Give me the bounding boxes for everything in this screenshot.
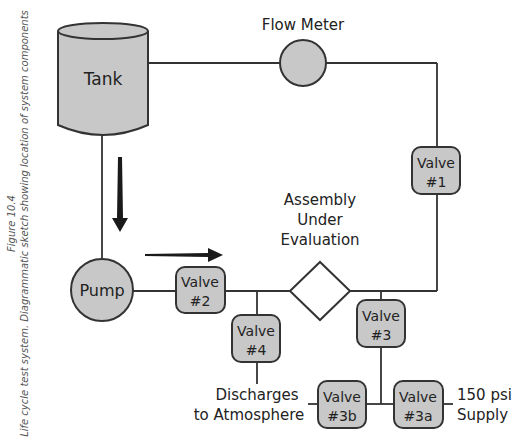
assembly-label-line2: Under: [297, 211, 343, 229]
right-arrow-icon: [145, 248, 223, 262]
valve-2: Valve #2: [176, 267, 225, 313]
valve-3-label: Valve: [362, 308, 400, 324]
valve-3a-label: Valve: [399, 389, 437, 405]
discharge-line2: to Atmosphere: [194, 406, 305, 424]
pump: Pump: [71, 259, 133, 321]
system-diagram: Tank Flow Meter Pump Assembly Under Eval…: [0, 0, 520, 447]
pump-label: Pump: [79, 281, 124, 300]
valve-3a: Valve #3a: [394, 381, 443, 428]
valve-3b: Valve #3b: [318, 381, 366, 428]
tank-label: Tank: [83, 69, 123, 89]
valve-1-label: Valve: [417, 155, 455, 171]
valve-3b-label: Valve: [323, 389, 361, 405]
valve-3: Valve #3: [357, 300, 405, 347]
tank: Tank: [58, 23, 148, 135]
supply-line2: Supply: [457, 406, 508, 424]
valve-3-number: #3: [371, 327, 392, 343]
valve-4-number: #4: [246, 342, 267, 358]
valve-3a-number: #3a: [403, 408, 432, 424]
supply-label: 150 psi Supply: [457, 386, 512, 424]
supply-line1: 150 psi: [457, 386, 512, 404]
discharge-label: Discharges to Atmosphere: [194, 386, 305, 424]
valve-1: Valve #1: [412, 147, 460, 194]
valve-4: Valve #4: [232, 315, 280, 362]
down-arrow-icon: [112, 157, 128, 232]
assembly-label-line3: Evaluation: [280, 231, 359, 249]
flow-meter-label: Flow Meter: [262, 16, 345, 34]
valve-2-number: #2: [190, 293, 211, 309]
valve-1-number: #1: [426, 174, 447, 190]
valve-4-label: Valve: [237, 323, 275, 339]
discharge-line1: Discharges: [216, 386, 299, 404]
assembly-under-evaluation: Assembly Under Evaluation: [280, 191, 359, 320]
assembly-label-line1: Assembly: [284, 191, 356, 209]
valve-3b-number: #3b: [327, 408, 357, 424]
flow-meter: Flow Meter: [262, 16, 345, 86]
valve-2-label: Valve: [181, 274, 219, 290]
